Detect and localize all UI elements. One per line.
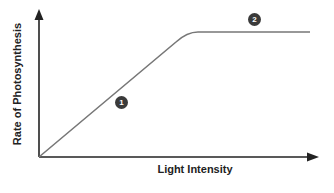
x-axis	[39, 153, 319, 162]
region-marker-2: 2	[248, 13, 261, 26]
y-axis-label: Rate of Photosynthesis	[11, 19, 23, 149]
y-axis	[35, 9, 44, 157]
x-axis-label: Light Intensity	[140, 163, 250, 175]
region-marker-1: 1	[115, 96, 128, 109]
photosynthesis-curve	[39, 32, 310, 157]
x-axis-arrow-icon	[307, 153, 319, 162]
y-axis-arrow-icon	[35, 9, 44, 20]
